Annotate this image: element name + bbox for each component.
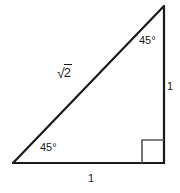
hypotenuse-label: √2	[57, 66, 72, 80]
triangle-diagram: 45° 45° 1 1 √2	[0, 0, 180, 193]
triangle-svg	[0, 0, 180, 193]
radicand-value: 2	[64, 64, 72, 80]
square-root-expression: √2	[57, 66, 72, 80]
angle-label-bottom-left: 45°	[40, 142, 57, 153]
side-label-bottom: 1	[88, 173, 94, 184]
right-angle-marker	[142, 140, 164, 163]
side-label-right: 1	[167, 81, 173, 92]
angle-label-top: 45°	[139, 35, 156, 46]
